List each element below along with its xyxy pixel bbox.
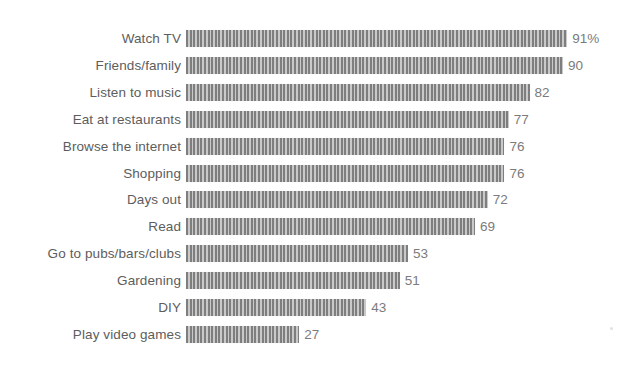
- scan-artifact-speck: [610, 327, 613, 330]
- bar-value-label: 53: [413, 245, 428, 262]
- bar-fill-hatched: [186, 57, 563, 74]
- bar-row: Gardening51: [0, 272, 634, 299]
- plot-area: Watch TV91%Friends/family90Listen to mus…: [0, 0, 634, 369]
- category-label: Days out: [0, 190, 181, 210]
- bar-value-label: 90: [568, 57, 583, 74]
- bar-value-label: 43: [371, 299, 386, 316]
- bar-fill-hatched: [186, 165, 504, 182]
- bar-fill-hatched: [186, 111, 509, 128]
- bar-row: Eat at restaurants77: [0, 111, 634, 138]
- bar-row: Listen to music82: [0, 84, 634, 111]
- bar-fill-hatched: [186, 218, 475, 235]
- category-label: Browse the internet: [0, 137, 181, 157]
- bar: [186, 326, 299, 343]
- bar-row: Shopping76: [0, 165, 634, 192]
- bar: [186, 30, 567, 47]
- category-label: Read: [0, 217, 181, 237]
- bar: [186, 57, 563, 74]
- bar-row: Watch TV91%: [0, 30, 634, 57]
- bar-fill-hatched: [186, 326, 299, 343]
- bar-value-label: 27: [304, 326, 319, 343]
- category-label: Play video games: [0, 325, 181, 345]
- bar-row: Go to pubs/bars/clubs53: [0, 245, 634, 272]
- bar: [186, 138, 504, 155]
- bar-row: DIY43: [0, 299, 634, 326]
- category-label: Gardening: [0, 271, 181, 291]
- bar-value-label: 76: [509, 138, 524, 155]
- bar: [186, 84, 530, 101]
- bar-value-label: 76: [509, 165, 524, 182]
- bar-row: Browse the internet76: [0, 138, 634, 165]
- bar: [186, 191, 488, 208]
- bar-row: Days out72: [0, 191, 634, 218]
- bar-fill-hatched: [186, 30, 567, 47]
- bar-fill-hatched: [186, 299, 366, 316]
- category-label: Watch TV: [0, 29, 181, 49]
- bar-value-label: 77: [514, 111, 529, 128]
- bar: [186, 272, 400, 289]
- category-label: Go to pubs/bars/clubs: [0, 244, 181, 264]
- bar-value-label: 69: [480, 218, 495, 235]
- bar: [186, 245, 408, 262]
- bar-row: Friends/family90: [0, 57, 634, 84]
- bar-value-label: 72: [493, 191, 508, 208]
- category-label: Eat at restaurants: [0, 110, 181, 130]
- bar-fill-hatched: [186, 84, 530, 101]
- bar-value-label: 51: [405, 272, 420, 289]
- bar-value-label: 91%: [572, 30, 599, 47]
- bar: [186, 165, 504, 182]
- category-label: Shopping: [0, 164, 181, 184]
- bar-fill-hatched: [186, 245, 408, 262]
- bar-chart: Watch TV91%Friends/family90Listen to mus…: [0, 0, 634, 369]
- bar-row: Read69: [0, 218, 634, 245]
- bar: [186, 111, 509, 128]
- bar: [186, 218, 475, 235]
- category-label: Friends/family: [0, 56, 181, 76]
- bar: [186, 299, 366, 316]
- bar-row: Play video games27: [0, 326, 634, 353]
- bar-fill-hatched: [186, 138, 504, 155]
- bar-fill-hatched: [186, 272, 400, 289]
- category-label: Listen to music: [0, 83, 181, 103]
- category-label: DIY: [0, 298, 181, 318]
- bar-fill-hatched: [186, 191, 488, 208]
- bar-value-label: 82: [535, 84, 550, 101]
